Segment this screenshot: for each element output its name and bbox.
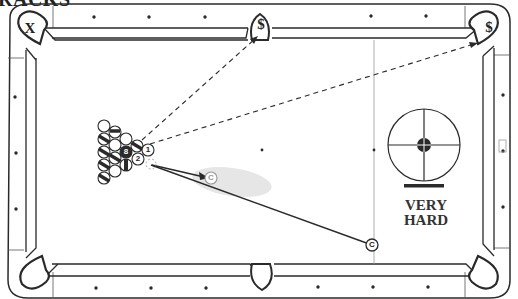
pool-table-diagram bbox=[0, 0, 518, 299]
pocket-label-top-left: X bbox=[20, 20, 40, 37]
ball-label-2: 2 bbox=[132, 153, 144, 165]
cushion-bottom-right bbox=[274, 264, 478, 276]
difficulty-line-1: VERY bbox=[396, 198, 456, 213]
ball-label-8: 8 bbox=[120, 146, 132, 158]
cue-ball-label-end: C bbox=[205, 172, 217, 184]
pocket-label-top-right: $ bbox=[479, 19, 499, 36]
ghost-cue-ball bbox=[146, 159, 156, 169]
cushion-right bbox=[483, 48, 494, 256]
aim-target-icon bbox=[388, 109, 460, 188]
pocket-label-top-middle: $ bbox=[251, 16, 271, 33]
pocket-bottom-left bbox=[20, 256, 49, 289]
rail-diamonds bbox=[13, 14, 504, 289]
table-outer-frame bbox=[8, 4, 510, 298]
pocket-bottom-middle bbox=[251, 264, 272, 290]
cushion-top-right bbox=[272, 28, 478, 38]
cue-landing-zone bbox=[190, 163, 273, 202]
path-ball-to-top-middle bbox=[142, 38, 256, 140]
cue-ball-label-start: C bbox=[366, 239, 378, 251]
difficulty-line-2: HARD bbox=[396, 213, 456, 228]
difficulty-label: VERY HARD bbox=[396, 198, 456, 228]
path-ball1-to-top-right bbox=[150, 44, 474, 144]
pocket-bottom-right bbox=[469, 256, 498, 289]
cushion-top-left bbox=[44, 28, 248, 38]
cushion-left bbox=[26, 50, 36, 258]
cushion-bottom-left bbox=[46, 264, 253, 276]
